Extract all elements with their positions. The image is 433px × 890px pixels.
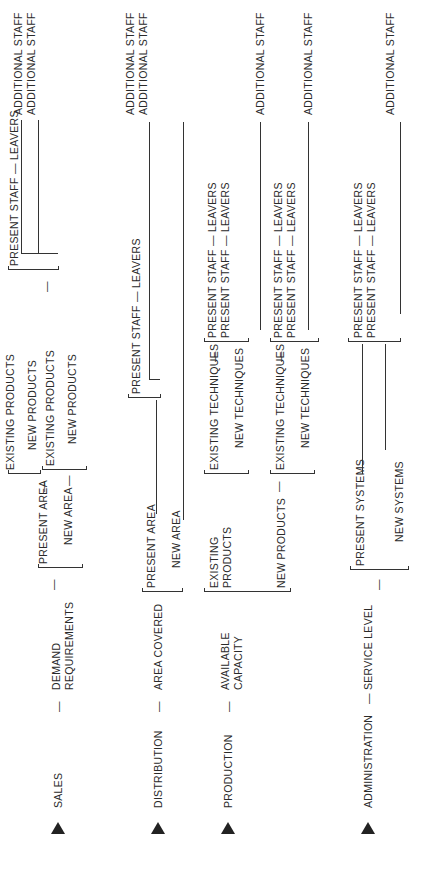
production-existing-existing-techniques: EXISTING TECHNIQUES [208,344,220,470]
administration-staff-line [400,122,401,314]
production-products-bracket [204,591,290,592]
production-staff-bracket-1 [204,341,248,342]
sales-present-area: PRESENT AREA [37,480,49,564]
production-existing-products-line2: PRODUCTS [221,527,233,588]
production-staff-leavers-2: PRESENT STAFF — LEAVERS [219,182,231,338]
administration-additional-staff: ADDITIONAL STAFF [384,12,396,115]
distribution-staff-line-1 [149,122,150,380]
administration-new-line [385,344,386,450]
bracket-tick [182,588,183,592]
sales-present-area-dash: — [37,481,49,492]
production-new-products: NEW PRODUCTS [275,498,287,588]
distribution-present-line [156,400,157,514]
administration-driver: SERVICE LEVEL [362,605,374,690]
production-existing-tech-dash: — [208,351,220,362]
production-staff-leavers-3: PRESENT STAFF — LEAVERS [272,182,284,338]
distribution-label: DISTRIBUTION [152,730,164,808]
bracket-tick [204,338,205,342]
administration-dash-2: — [372,579,384,590]
production-staff-leavers-4: PRESENT STAFF — LEAVERS [285,182,297,338]
administration-staff-leavers-2: PRESENT STAFF — LEAVERS [365,182,377,338]
administration-dash: — [362,693,374,704]
sales-driver-line1: DEMAND [50,643,62,690]
distribution-dash: — [152,701,164,712]
sales-staff-line-2 [38,120,39,254]
distribution-new-line [183,122,184,520]
production-additional-staff-2: ADDITIONAL STAFF [302,12,314,115]
bracket-tick [40,470,41,474]
distribution-present-area: PRESENT AREA [145,504,157,588]
bracket-tick [42,466,43,470]
bracket-tick [142,588,143,592]
sales-additional-staff-1: ADDITIONAL STAFF [12,12,24,115]
sales-new-area: NEW AREA [62,487,74,545]
distribution-additional-staff-1: ADDITIONAL STAFF [124,12,136,115]
production-driver-line2: CAPACITY [232,636,244,690]
distribution-present-staff-leavers: PRESENT STAFF — LEAVERS [130,238,142,394]
sales-additional-staff-2: ADDITIONAL STAFF [25,12,37,115]
production-additional-staff-1: ADDITIONAL STAFF [254,12,266,115]
administration-present-systems: PRESENT SYSTEMS [354,459,366,566]
bracket-tick [350,566,351,570]
bracket-tick [204,588,205,592]
production-tech-bracket-2 [270,473,314,474]
sales-products-bracket-1 [8,473,40,474]
bracket-tick [204,470,205,474]
sales-products-bracket-2 [42,469,86,470]
bracket-tick [400,338,401,342]
sales-new-existing-products: EXISTING PRODUCTS [44,350,56,466]
sales-present-new-products: NEW PRODUCTS [26,360,38,450]
production-tech-bracket-1 [204,473,248,474]
production-new-tech-dash: — [274,351,286,362]
sales-bullet-triangle-icon [51,822,65,834]
sales-new-new-products: NEW PRODUCTS [66,354,78,444]
bracket-tick [408,566,409,570]
sales-area-bracket [38,567,82,568]
administration-new-systems: NEW SYSTEMS [393,461,405,542]
production-new-new-techniques: NEW TECHNIQUES [299,348,311,448]
distribution-bullet-triangle-icon [151,822,165,834]
production-staff-line-2 [308,122,309,330]
bracket-tick [248,470,249,474]
bracket-tick [38,253,58,254]
sales-dash: — [52,701,64,712]
sales-new-area-dash: — [62,475,74,486]
bracket-tick [128,394,129,398]
bracket-tick [86,466,87,470]
administration-systems-bracket [350,569,408,570]
bracket-tick [290,588,291,592]
administration-bullet-triangle-icon [361,822,375,834]
administration-present-line [362,344,363,474]
sales-staff-line-1 [21,120,22,254]
production-dash: — [222,701,234,712]
bracket-tick [318,338,319,342]
production-bullet-triangle-icon [221,822,235,834]
distribution-additional-staff-2: ADDITIONAL STAFF [137,12,149,115]
administration-label: ADMINISTRATION [362,715,374,808]
sales-staff-bracket [8,269,58,270]
production-label: PRODUCTION [222,734,234,808]
administration-staff-leavers-1: PRESENT STAFF — LEAVERS [352,182,364,338]
sales-dash-2: — [47,579,59,590]
production-new-products-dash: — [272,481,284,492]
bracket-tick [314,470,315,474]
sales-dash-3: — [40,281,52,292]
production-driver-line1: AVAILABLE [219,632,231,690]
production-staff-bracket-2 [270,341,318,342]
administration-staff-bracket [348,341,400,342]
bracket-tick [58,266,59,270]
distribution-staff-bracket [128,397,160,398]
bracket-tick [270,338,271,342]
bracket-tick [8,266,9,270]
staffing-requirements-diagram: SALES — DEMAND REQUIREMENTS — PRESENT AR… [0,0,433,890]
bracket-tick [160,394,161,398]
sales-present-staff-leavers: PRESENT STAFF — LEAVERS [8,110,20,266]
distribution-new-area: NEW AREA [170,510,182,568]
distribution-area-bracket [142,591,182,592]
production-staff-line-1 [260,122,261,330]
sales-label: SALES [52,773,64,808]
production-staff-leavers-1: PRESENT STAFF — LEAVERS [206,182,218,338]
bracket-tick [82,564,83,568]
production-new-existing-techniques: EXISTING TECHNIQUES [274,344,286,470]
sales-driver-line2: REQUIREMENTS [63,602,75,690]
